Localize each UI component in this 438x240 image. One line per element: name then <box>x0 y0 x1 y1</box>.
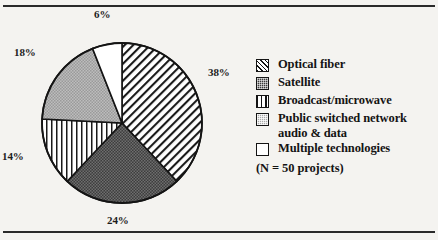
legend-swatch-vertical-lines-icon <box>256 95 269 108</box>
pie-label-38-percent: 38% <box>208 66 230 78</box>
pie-chart <box>36 22 212 218</box>
pie-label-18-percent: 18% <box>14 46 36 58</box>
pie-chart-svg <box>36 22 212 218</box>
pie-label-14-percent: 14% <box>2 150 24 162</box>
legend-item-public-switched-network: Public switched network audio & data <box>256 111 434 140</box>
bottom-horizontal-rule <box>3 231 435 233</box>
legend-swatch-light-gray-dots-icon <box>256 113 269 126</box>
pie-label-24-percent: 24% <box>107 214 129 226</box>
chart-legend: Optical fiber Satellite Broadcast/microw… <box>256 57 434 159</box>
top-horizontal-rule <box>3 5 435 7</box>
figure-container: 6% 38% 18% 14% 24% Optical fiber Satelli… <box>0 0 438 240</box>
legend-label-public-switched-network: Public switched network audio & data <box>278 111 407 140</box>
legend-label-multiple-technologies: Multiple technologies <box>278 141 390 156</box>
pie-label-6-percent: 6% <box>94 8 110 20</box>
legend-item-satellite: Satellite <box>256 75 434 92</box>
legend-label-satellite: Satellite <box>278 75 320 90</box>
legend-swatch-solid-white-icon <box>256 143 269 156</box>
legend-item-broadcast-microwave: Broadcast/microwave <box>256 93 434 110</box>
sample-size-note: (N = 50 projects) <box>256 161 343 176</box>
legend-swatch-diagonal-hatch-icon <box>256 59 269 72</box>
legend-swatch-dark-checker-icon <box>256 77 269 90</box>
legend-label-public-switched-network-line1: Public switched network <box>278 111 407 125</box>
legend-item-multiple-technologies: Multiple technologies <box>256 141 434 158</box>
legend-item-optical-fiber: Optical fiber <box>256 57 434 74</box>
legend-label-public-switched-network-line2: audio & data <box>278 126 407 141</box>
legend-label-broadcast-microwave: Broadcast/microwave <box>278 93 392 108</box>
legend-label-optical-fiber: Optical fiber <box>278 57 345 72</box>
